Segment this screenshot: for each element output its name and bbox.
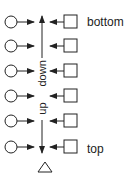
square-node — [64, 64, 77, 77]
label-top: top — [87, 143, 104, 155]
label-bottom: bottom — [87, 16, 124, 28]
circle-node — [5, 115, 17, 127]
circle-node — [5, 90, 17, 102]
circle-node — [5, 40, 17, 52]
square-node — [64, 39, 77, 52]
row-2 — [5, 39, 77, 52]
square-node — [64, 140, 77, 153]
row-6 — [5, 140, 77, 153]
label-down: down — [36, 61, 49, 87]
circle-node — [5, 141, 17, 153]
circle-node — [5, 16, 17, 28]
triangle-node — [38, 162, 52, 172]
square-node — [64, 114, 77, 127]
circle-node — [5, 65, 17, 77]
label-up: up — [36, 101, 49, 117]
square-node — [64, 15, 77, 28]
square-node — [64, 89, 77, 102]
row-1 — [5, 15, 77, 28]
